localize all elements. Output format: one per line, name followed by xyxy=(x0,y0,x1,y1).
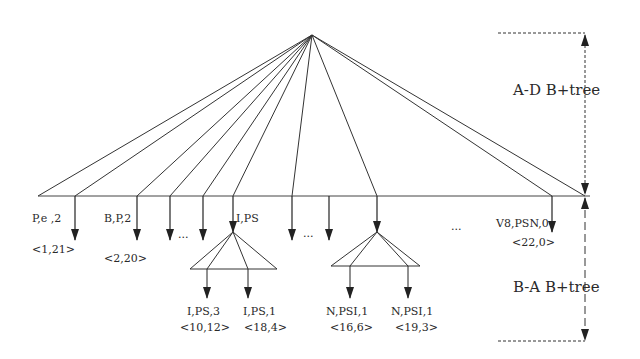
leaf-pos: <2,20> xyxy=(104,252,147,265)
fan-line xyxy=(170,35,312,196)
lower-tree-label: B-A B+tree xyxy=(513,278,600,296)
ellipsis: ... xyxy=(178,228,189,241)
subtree-right xyxy=(331,232,420,298)
fan-line xyxy=(312,35,377,196)
fan-line xyxy=(233,35,312,196)
fan-line xyxy=(203,35,312,196)
leaf-key: B,P,2 xyxy=(104,212,131,225)
subtree-key: I,PS,3 xyxy=(187,305,220,318)
upper-tree-label: A-D B+tree xyxy=(512,81,600,99)
subtree-pos: <16,6> xyxy=(330,321,373,334)
fan-line xyxy=(312,35,585,196)
fan-line xyxy=(75,35,312,196)
subtree-pos: <19,3> xyxy=(395,321,438,334)
subtree-left xyxy=(190,232,277,298)
b-plus-tree-diagram: A-D B+tree B-A B+tree P,e ,2 <1,21> B,P,… xyxy=(0,0,640,359)
leaf-key: V8,PSN,0 xyxy=(495,217,549,230)
subtree-key: N,PSI,1 xyxy=(391,305,433,318)
ellipsis: ... xyxy=(451,220,462,233)
leaf-key: P,e ,2 xyxy=(32,212,61,225)
leaf-pos: <1,21> xyxy=(32,243,75,256)
leaf-arrows xyxy=(75,196,552,240)
leaf-pos: <22,0> xyxy=(512,236,555,249)
subtree-pos: <18,4> xyxy=(244,321,287,334)
fan-line xyxy=(137,35,312,196)
leaf-key: I,PS xyxy=(236,212,259,225)
subtree-key: I,PS,1 xyxy=(243,305,276,318)
ellipsis: ... xyxy=(303,227,314,240)
upper-tree-fan xyxy=(38,35,585,196)
fan-line xyxy=(292,35,312,196)
subtree-key: N,PSI,1 xyxy=(326,305,368,318)
fan-line xyxy=(38,35,312,196)
subtree-pos: <10,12> xyxy=(180,321,230,334)
fan-line xyxy=(312,35,552,196)
